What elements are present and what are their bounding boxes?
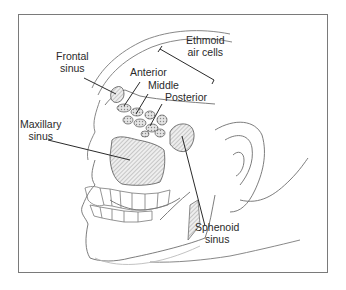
label-sphenoid-sinus: Sphenoid sinus: [195, 221, 239, 245]
frontal-sinus-shape: [111, 87, 124, 103]
label-maxillary-line1: Maxillary: [20, 118, 61, 130]
label-ethmoid-line1: Ethmoid: [186, 34, 225, 46]
label-posterior: Posterior: [165, 91, 207, 103]
teeth: [85, 187, 170, 223]
label-frontal-sinus: Frontal sinus: [56, 50, 89, 74]
maxillary-sinus-shape: [110, 137, 165, 185]
ear: [215, 122, 308, 212]
label-anterior: Anterior: [130, 66, 167, 78]
label-ethmoid-line2: air cells: [186, 46, 225, 58]
label-frontal-sinus-line1: Frontal: [56, 50, 89, 62]
label-maxillary-line2: sinus: [20, 130, 61, 142]
label-maxillary-sinus: Maxillary sinus: [20, 118, 61, 142]
label-middle: Middle: [148, 79, 179, 91]
label-frontal-sinus-line2: sinus: [56, 62, 89, 74]
label-sphenoid-line1: Sphenoid: [195, 221, 239, 233]
label-sphenoid-line2: sinus: [195, 233, 239, 245]
skull-sinus-illustration: [0, 0, 346, 290]
label-ethmoid-air-cells: Ethmoid air cells: [186, 34, 225, 58]
